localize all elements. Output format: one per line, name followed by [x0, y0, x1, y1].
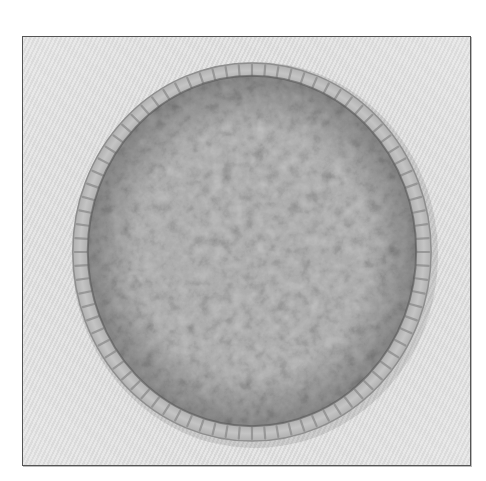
pie-photo	[23, 37, 470, 465]
photo-frame	[22, 36, 471, 466]
